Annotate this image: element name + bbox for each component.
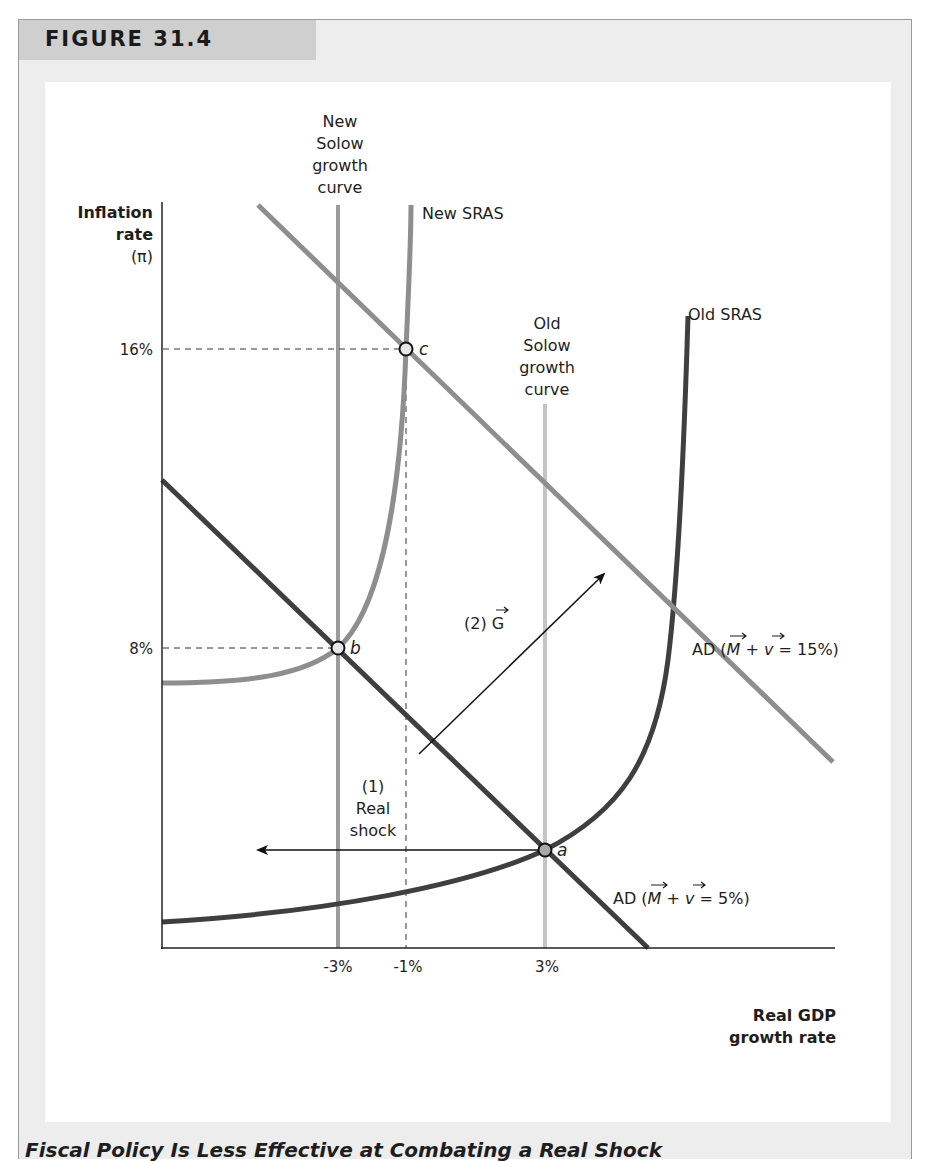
old-ad-line [162,480,648,948]
real-shock-label: (1) Real shock [350,777,397,840]
svg-text:growth: growth [519,358,575,377]
svg-text:Solow: Solow [316,134,363,153]
x-tick-neg3: -3% [323,958,352,976]
svg-text:shock: shock [350,821,397,840]
fiscal-g-arrow [419,574,604,754]
svg-text:rate: rate [116,225,153,244]
point-c-label: c [419,339,429,359]
old-solow-label: Old Solow growth curve [519,314,575,399]
point-c [400,343,413,356]
point-a-label: a [557,840,567,860]
svg-text:(2) G: (2) G [464,614,504,633]
old-ad-label: AD (M + v = 5%) [613,882,750,908]
svg-text:curve: curve [525,380,570,399]
svg-text:Real: Real [356,799,391,818]
figure-caption: Fiscal Policy Is Less Effective at Comba… [25,1138,662,1162]
old-sras-curve [162,316,688,922]
x-tick-neg1: -1% [393,958,422,976]
svg-text:Solow: Solow [523,336,570,355]
svg-text:Real GDP: Real GDP [753,1006,836,1025]
svg-text:(π): (π) [131,247,153,266]
point-a [539,844,552,857]
x-tick-3: 3% [535,958,559,976]
point-b [332,642,345,655]
y-tick-16: 16% [120,341,153,359]
svg-text:growth rate: growth rate [729,1028,836,1047]
new-ad-label: AD (M + v = 15%) [692,633,839,659]
new-sras-label: New SRAS [422,204,504,223]
point-b-label: b [350,638,361,658]
svg-text:(1): (1) [362,777,385,796]
fiscal-g-label: (2) G [464,607,508,633]
new-sras-curve [162,205,411,683]
svg-text:Inflation: Inflation [77,203,153,222]
svg-text:AD (M + v = 5%): AD (M + v = 5%) [613,889,750,908]
svg-text:AD (M + v = 15%): AD (M + v = 15%) [692,640,839,659]
svg-text:New: New [323,112,358,131]
new-solow-label: New Solow growth curve [312,112,368,197]
svg-text:Old: Old [533,314,560,333]
svg-text:curve: curve [318,178,363,197]
x-axis-label: Real GDP growth rate [729,1006,836,1047]
y-axis-label: Inflation rate (π) [77,203,153,266]
old-sras-label: Old SRAS [688,305,762,324]
y-tick-8: 8% [129,640,153,658]
svg-text:growth: growth [312,156,368,175]
